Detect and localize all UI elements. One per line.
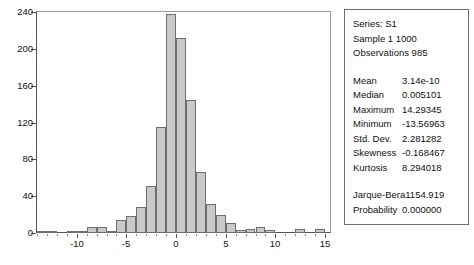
- x-axis-minor-tick: [97, 234, 98, 236]
- test-statistic-row: Probability0.000000: [353, 203, 460, 218]
- test-statistic-row-value: 0.000000: [402, 203, 460, 218]
- test-statistic-row: Jarque-Bera1154.919: [353, 188, 460, 203]
- x-axis-minor-tick: [206, 234, 207, 236]
- panel-spacer: [345, 61, 468, 74]
- statistic-row: Maximum14.29345: [353, 103, 460, 118]
- statistics-header: Series: S1 Sample 1 1000 Observations 98…: [345, 17, 468, 61]
- statistic-row-value: 14.29345: [402, 103, 460, 118]
- x-axis-minor-tick: [67, 234, 68, 236]
- statistic-row: Skewness-0.168467: [353, 146, 460, 161]
- x-axis-tick-label: 5: [211, 239, 241, 249]
- statistic-row: Minimum-13.56963: [353, 117, 460, 132]
- x-axis-minor-tick: [146, 234, 147, 236]
- test-statistic-row-label: Jarque-Bera: [353, 188, 405, 203]
- x-axis-minor-tick: [47, 234, 48, 236]
- normality-test-rows: Jarque-Bera1154.919Probability0.000000: [345, 188, 468, 217]
- x-axis-minor-tick: [186, 234, 187, 236]
- statistic-row-label: Kurtosis: [353, 161, 387, 176]
- x-axis-minor-tick: [265, 234, 266, 236]
- x-axis-tick-label: 10: [260, 239, 290, 249]
- statistics-rows: Mean3.14e-10Median0.005101Maximum14.2934…: [345, 74, 468, 176]
- x-axis-minor-tick: [116, 234, 117, 236]
- sample-label: Sample 1 1000: [353, 32, 460, 47]
- x-axis-minor-tick: [246, 234, 247, 236]
- x-axis-minor-tick: [295, 234, 296, 236]
- statistic-row-label: Std. Dev.: [353, 132, 391, 147]
- statistic-row-label: Skewness: [353, 146, 396, 161]
- x-axis-minor-tick: [196, 234, 197, 236]
- x-axis-minor-tick: [236, 234, 237, 236]
- statistic-row-value: 8.294018: [402, 161, 460, 176]
- x-axis-minor-tick: [285, 234, 286, 236]
- test-statistic-row-value: 1154.919: [405, 188, 460, 203]
- x-axis-minor-tick: [107, 234, 108, 236]
- statistic-row-label: Minimum: [353, 117, 392, 132]
- statistic-row-value: 0.005101: [402, 88, 460, 103]
- x-axis-minor-tick: [256, 234, 257, 236]
- x-axis-minor-tick: [87, 234, 88, 236]
- x-axis-minor-tick: [216, 234, 217, 236]
- x-axis-tick-label: -10: [62, 239, 92, 249]
- x-axis: -10-5051015: [0, 0, 340, 265]
- statistic-row-label: Maximum: [353, 103, 394, 118]
- x-axis-minor-tick: [57, 234, 58, 236]
- statistic-row-label: Mean: [353, 74, 377, 89]
- x-axis-minor-tick: [136, 234, 137, 236]
- x-axis-tick-label: 0: [161, 239, 191, 249]
- statistic-row: Kurtosis8.294018: [353, 161, 460, 176]
- histogram-statistics-view: 04080120160200240 -10-5051015 Series: S1…: [0, 0, 474, 265]
- x-axis-tick-label: 15: [310, 239, 340, 249]
- statistic-row-value: 3.14e-10: [402, 74, 460, 89]
- statistic-row: Median0.005101: [353, 88, 460, 103]
- x-axis-minor-tick: [305, 234, 306, 236]
- statistics-panel: Series: S1 Sample 1 1000 Observations 98…: [344, 9, 469, 225]
- statistic-row: Mean3.14e-10: [353, 74, 460, 89]
- x-axis-minor-tick: [37, 234, 38, 236]
- x-axis-minor-tick: [166, 234, 167, 236]
- series-label: Series: S1: [353, 17, 460, 32]
- statistic-row-value: -0.168467: [402, 146, 460, 161]
- statistic-row-value: -13.56963: [402, 117, 460, 132]
- x-axis-minor-tick: [156, 234, 157, 236]
- observations-label: Observations 985: [353, 46, 460, 61]
- panel-spacer-2: [345, 175, 468, 188]
- histogram-chart: 04080120160200240 -10-5051015: [0, 0, 340, 265]
- x-axis-tick-label: -5: [111, 239, 141, 249]
- statistic-row-label: Median: [353, 88, 384, 103]
- statistic-row: Std. Dev.2.281282: [353, 132, 460, 147]
- x-axis-minor-tick: [315, 234, 316, 236]
- statistic-row-value: 2.281282: [402, 132, 460, 147]
- test-statistic-row-label: Probability: [353, 203, 397, 218]
